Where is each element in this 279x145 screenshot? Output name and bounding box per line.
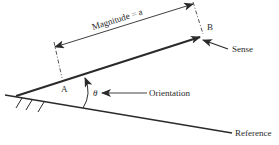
point-b-label: B — [207, 22, 213, 32]
diagram-svg: Magnitude = a A B θ Orientation Sense Re… — [0, 0, 279, 145]
reference-label: Reference — [235, 128, 271, 138]
point-a-label: A — [61, 84, 68, 94]
extension-line-b — [193, 2, 203, 34]
ground-hatching — [16, 98, 44, 112]
sense-label: Sense — [232, 44, 253, 54]
vector-diagram: Magnitude = a A B θ Orientation Sense Re… — [0, 0, 279, 145]
magnitude-label: Magnitude = a — [91, 7, 144, 32]
angle-arc — [83, 78, 88, 108]
orientation-label: Orientation — [149, 88, 190, 98]
reference-line — [5, 95, 232, 133]
theta-symbol: θ — [93, 88, 98, 98]
sense-pointer — [203, 40, 228, 49]
magnitude-dimension-line — [55, 4, 193, 47]
